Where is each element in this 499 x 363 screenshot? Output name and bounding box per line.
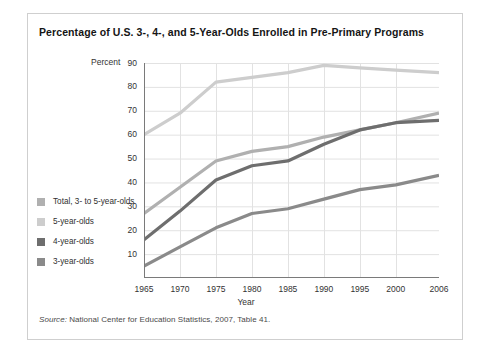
y-tick-label: 70: [113, 105, 137, 115]
legend-item-3-year-olds: 3-year-olds: [37, 257, 135, 268]
plot-area: [144, 63, 439, 278]
y-tick-label: 90: [113, 58, 137, 68]
legend-swatch-3-year-olds: [37, 258, 45, 266]
legend-label-4-year-olds: 4-year-olds: [53, 237, 135, 248]
series-line-3-year-olds: [144, 175, 439, 266]
axis-lines: [144, 63, 439, 278]
grid-lines: [144, 63, 439, 278]
legend-swatch-4-year-olds: [37, 238, 45, 246]
x-tick-label: 1990: [304, 284, 344, 294]
legend-swatch-5-year-olds: [37, 218, 45, 226]
x-axis-title: Year: [28, 297, 464, 307]
y-tick-label: 10: [113, 249, 137, 259]
series-line-total-3-to-5-year-olds: [144, 113, 439, 213]
source-text: National Center for Education Statistics…: [67, 315, 270, 324]
source-note: Source: National Center for Education St…: [39, 315, 270, 324]
y-tick-label: 50: [113, 153, 137, 163]
y-tick-label: 80: [113, 81, 137, 91]
legend-swatch-total: [37, 198, 45, 206]
x-tick-label: 1975: [196, 284, 236, 294]
x-tick-label: 1985: [268, 284, 308, 294]
page-title: Percentage of U.S. 3-, 4-, and 5-Year-Ol…: [39, 26, 449, 39]
x-tick-label: 2006: [419, 284, 459, 294]
figure-frame: Percentage of U.S. 3-, 4-, and 5-Year-Ol…: [27, 13, 463, 340]
x-tick-label: 2000: [376, 284, 416, 294]
legend-item-4-year-olds: 4-year-olds: [37, 237, 135, 248]
y-tick-label: 20: [113, 225, 137, 235]
line-chart-svg: [144, 63, 439, 278]
data-series-group: [144, 65, 439, 266]
x-tick-label: 1995: [340, 284, 380, 294]
x-tick-label: 1965: [124, 284, 164, 294]
axis-ticks: [144, 64, 439, 279]
y-tick-label: 60: [113, 129, 137, 139]
y-tick-label: 40: [113, 177, 137, 187]
y-tick-label: 30: [113, 201, 137, 211]
x-tick-label: 1980: [232, 284, 272, 294]
x-tick-label: 1970: [160, 284, 200, 294]
source-label: Source:: [39, 315, 67, 324]
